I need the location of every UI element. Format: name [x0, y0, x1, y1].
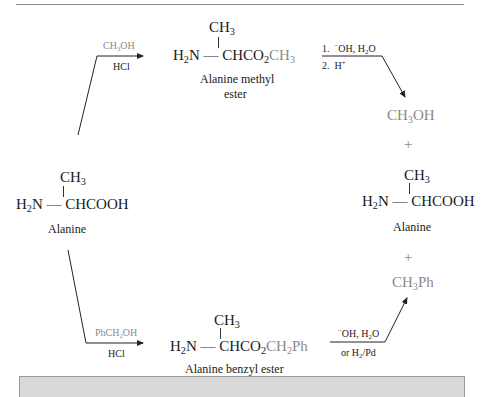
reagent-methanol: CH3OH [103, 40, 135, 51]
reagent-hcl-upper: HCl [113, 61, 130, 72]
plus-1: + [404, 137, 412, 152]
step1-reagents: 1. −OH, H2O [322, 43, 376, 54]
reagent-hcl-lower: HCl [108, 348, 125, 359]
methyl-ester-name-2: ester [224, 87, 247, 102]
methyl-ester-name-1: Alanine methyl [200, 72, 274, 87]
arrow-esterify-methyl [78, 56, 143, 135]
plus-2: + [404, 250, 412, 265]
cleavage-reagents-top: −OH, H2O [338, 328, 379, 339]
product-methanol: CH3OH [387, 108, 435, 123]
product-toluene: CH3Ph [392, 275, 434, 290]
benzyl-ester-name: Alanine benzyl ester [185, 362, 284, 377]
alanine-start-name: Alanine [48, 222, 86, 237]
bottom-caption-bar [19, 376, 465, 397]
alanine-product-name: Alanine [393, 220, 431, 235]
cleavage-reagents-bottom: or H2/Pd [341, 347, 376, 358]
reagent-benzyl-alcohol: PhCH2OH [95, 327, 137, 338]
step2-reagents: 2. H+ [322, 60, 346, 71]
